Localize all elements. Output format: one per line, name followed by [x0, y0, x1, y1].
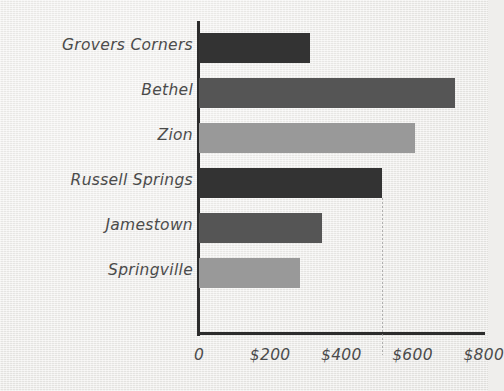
bar-russell-springs [199, 168, 382, 198]
x-tick-800: $800 [463, 346, 504, 364]
x-tick-600: $600 [392, 346, 433, 364]
reference-line [382, 198, 383, 355]
category-label-zion: Zion [0, 126, 193, 144]
plot-area [199, 22, 488, 334]
bar-springville [199, 258, 300, 288]
x-tick-200: $200 [250, 346, 291, 364]
category-label-jamestown: Jamestown [0, 216, 193, 234]
bar-grovers-corners [199, 33, 310, 63]
bar-zion [199, 123, 415, 153]
category-label-springville: Springville [0, 261, 193, 279]
category-label-bethel: Bethel [0, 81, 193, 99]
category-label-grovers-corners: Grovers Corners [0, 36, 193, 54]
x-tick-400: $400 [321, 346, 362, 364]
x-axis-tick-labels: 0 $200 $400 $600 $800 [0, 346, 488, 376]
x-tick-0: 0 [194, 346, 204, 364]
bar-bethel [199, 78, 455, 108]
category-label-column: Grovers Corners Bethel Zion Russell Spri… [0, 22, 193, 334]
bar-jamestown [199, 213, 322, 243]
category-label-russell-springs: Russell Springs [0, 171, 193, 189]
